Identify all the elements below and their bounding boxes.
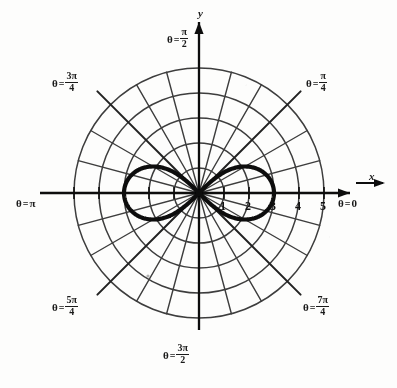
fraction-numerator: 5π [65, 295, 77, 307]
angle-label-theta-3pi-4: θ=3π4 [52, 72, 78, 94]
angle-label-theta-5pi-4: θ=5π4 [52, 296, 78, 318]
equals-sign: = [58, 302, 66, 313]
radial-tick-label-3: 3 [270, 199, 276, 214]
equals-sign: = [169, 350, 177, 361]
theta-symbol: θ [52, 301, 58, 313]
equals-sign: = [173, 34, 181, 45]
zero-value: 0 [351, 197, 357, 209]
fraction-numerator: 3π [65, 71, 77, 83]
x-axis-side-arrowhead [374, 179, 385, 187]
y-axis-name: y [198, 7, 203, 19]
fraction-7pi-4: 7π4 [316, 295, 328, 317]
angle-label-theta-pi: θ=π [16, 194, 35, 210]
pi-symbol: π [29, 197, 35, 209]
equals-sign: = [58, 78, 66, 89]
x-axis-name: x [369, 170, 375, 182]
fraction-3pi-4: 3π4 [65, 71, 77, 93]
theta-symbol: θ [303, 301, 309, 313]
theta-symbol: θ [167, 33, 173, 45]
equals-sign: = [312, 78, 320, 89]
theta-symbol: θ [163, 349, 169, 361]
scan-speck [146, 274, 149, 277]
theta-symbol: θ [16, 197, 22, 209]
fraction-denominator: 4 [65, 307, 77, 318]
fraction-numerator: 3π [176, 343, 188, 355]
fraction-pi-2: π2 [180, 27, 187, 49]
radial-tick-label-1: 1 [220, 199, 226, 214]
fraction-numerator: π [180, 27, 187, 39]
axis-label-x: x [369, 167, 375, 183]
theta-symbol: θ [306, 77, 312, 89]
angle-label-theta-3pi-2: θ=3π2 [163, 344, 189, 366]
fraction-pi-4: π4 [319, 71, 326, 93]
angle-label-theta-pi-4: θ=π4 [306, 72, 327, 94]
radial-tick-label-4: 4 [295, 199, 301, 214]
radial-tick-label-2: 2 [245, 199, 251, 214]
angle-label-theta-pi-2: θ=π2 [167, 28, 188, 50]
fraction-numerator: π [319, 71, 326, 83]
theta-symbol: θ [52, 77, 58, 89]
equals-sign: = [309, 302, 317, 313]
fraction-numerator: 7π [316, 295, 328, 307]
angle-label-theta-0: θ=0 [338, 194, 357, 210]
fraction-denominator: 4 [316, 307, 328, 318]
angle-label-theta-7pi-4: θ=7π4 [303, 296, 329, 318]
fraction-denominator: 4 [319, 83, 326, 94]
y-axis-arrowhead [194, 22, 203, 34]
axis-label-y: y [198, 4, 203, 20]
fraction-denominator: 4 [65, 83, 77, 94]
fraction-3pi-2: 3π2 [176, 343, 188, 365]
radial-tick-label-5: 5 [320, 199, 326, 214]
fraction-denominator: 2 [176, 355, 188, 366]
fraction-denominator: 2 [180, 39, 187, 50]
speck-dot [146, 274, 149, 277]
fraction-5pi-4: 5π4 [65, 295, 77, 317]
theta-symbol: θ [338, 197, 344, 209]
